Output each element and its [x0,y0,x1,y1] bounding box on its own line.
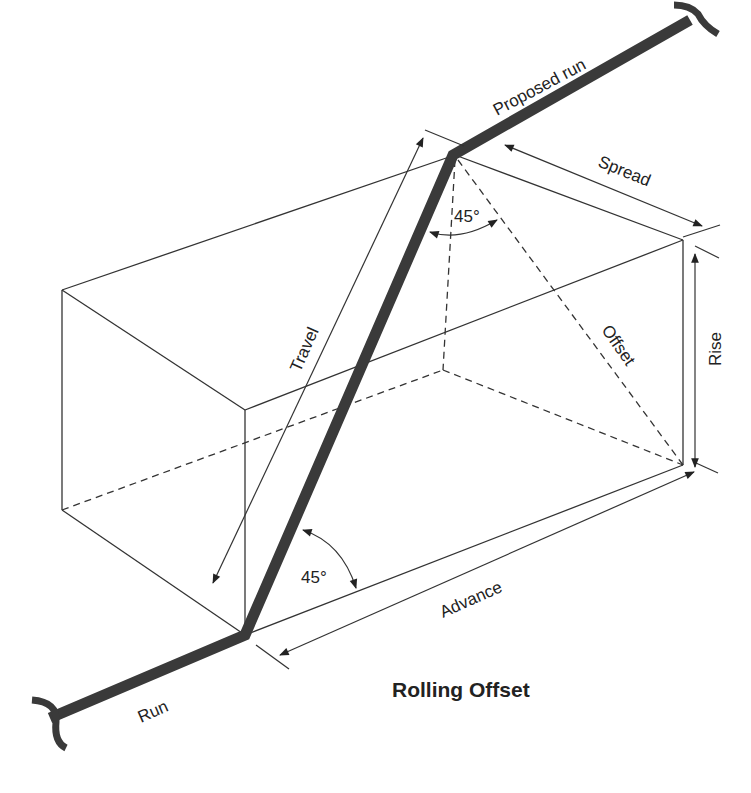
label-rise: Rise [706,332,725,366]
pipe [32,5,718,748]
diagram-title: Rolling Offset [392,678,530,701]
travel-dimension [213,130,464,583]
label-spread: Spread [596,152,654,190]
label-offset: Offset [598,321,640,369]
label-run: Run [135,697,171,727]
rolling-offset-diagram: Proposed run Spread Rise Offset Travel A… [0,0,751,793]
label-angle-bottom: 45° [301,568,327,587]
label-angle-top: 45° [454,207,480,226]
label-travel: Travel [286,324,322,374]
pipe-end-cap-bottom [32,700,66,748]
label-advance: Advance [437,577,505,621]
box-visible-edges [62,155,683,635]
